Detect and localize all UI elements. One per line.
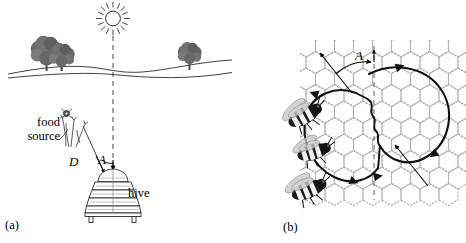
bee-lower	[279, 162, 337, 213]
panel-label-b: (b)	[283, 221, 298, 235]
hive-label: hive	[128, 187, 150, 201]
bee-middle	[288, 127, 340, 172]
panel-b-graphics	[0, 0, 466, 243]
figure-root: food source hive D A A (a) (b)	[0, 0, 466, 243]
angle-arc-b	[336, 62, 371, 74]
distance-label-D: D	[69, 155, 78, 169]
figure-eight-waggle-dance-path	[304, 67, 449, 181]
angle-label-A-panel-a: A	[98, 153, 106, 167]
angle-label-A-panel-b: A	[355, 49, 363, 63]
food-source-label: food source	[8, 116, 60, 143]
panel-label-a: (a)	[5, 219, 19, 233]
